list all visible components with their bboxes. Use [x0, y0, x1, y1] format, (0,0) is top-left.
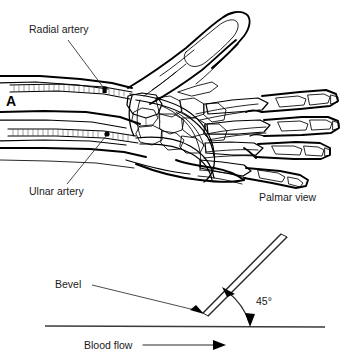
radial-artery-label: Radial artery: [29, 23, 89, 35]
bevel-label: Bevel: [55, 278, 81, 290]
panel-a-letter: A: [6, 93, 16, 109]
figure-root: Radial artery Ulnar artery A Palmar view: [0, 0, 345, 356]
vessel-horizontal-line: [45, 326, 325, 327]
palmar-view-caption: Palmar view: [259, 191, 317, 203]
radial-puncture-site: [103, 86, 107, 93]
angle-label: 45°: [256, 295, 272, 307]
ulnar-artery-label: Ulnar artery: [29, 185, 85, 197]
illustration-canvas: Radial artery Ulnar artery A Palmar view: [0, 0, 345, 356]
ulnar-puncture-site: [104, 131, 109, 136]
blood-flow-label: Blood flow: [84, 339, 133, 351]
